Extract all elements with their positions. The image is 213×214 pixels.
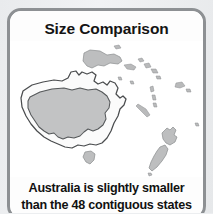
- oceania-map-svg: [10, 41, 203, 177]
- infographic-card-root: Size Comparison: [0, 0, 213, 213]
- card-caption: Australia is slightly smaller than the 4…: [10, 180, 203, 213]
- png-islet-a: [114, 45, 121, 49]
- new-caledonia-shape: [136, 104, 150, 117]
- tasmania-shape: [83, 151, 95, 164]
- new-britain-shape: [124, 64, 136, 70]
- vanuatu-shape: [150, 86, 157, 107]
- fiji-shape: [175, 82, 191, 92]
- pacific-islet-cluster: [118, 77, 199, 126]
- new-zealand-north-island-shape: [162, 127, 177, 145]
- caption-line-1: Australia is slightly smaller: [10, 180, 203, 197]
- oceania-map: [10, 41, 203, 177]
- page-title: Size Comparison: [10, 20, 203, 38]
- papua-new-guinea-shape: [83, 50, 122, 68]
- size-comparison-card: Size Comparison: [7, 8, 206, 213]
- card-inner-surface: Size Comparison: [10, 11, 203, 213]
- new-zealand-south-island-shape: [149, 145, 168, 171]
- stewart-island-shape: [148, 173, 152, 176]
- caption-line-2: than the 48 contiguous states: [10, 197, 203, 214]
- solomon-islands-shape: [138, 58, 161, 79]
